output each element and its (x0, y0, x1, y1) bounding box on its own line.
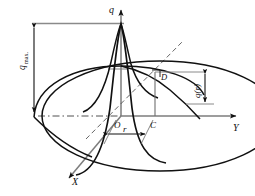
label-q-of-r: q(r) (192, 84, 202, 98)
label-q-max-main: q (17, 65, 27, 70)
r-dimension (104, 120, 153, 144)
label-q-axis: q (109, 4, 114, 15)
label-q-max-sub: max. (22, 51, 29, 64)
inner-surface-ellipse (34, 66, 204, 117)
label-point-c: C (150, 120, 157, 130)
label-q-max: q max. (17, 51, 29, 70)
label-q-of-r-text: q(r) (192, 84, 202, 98)
pressure-distribution-diagram: q Y X O C D r q max. q(r) (0, 0, 255, 196)
figure-container: q Y X O C D r q max. q(r) (0, 0, 255, 196)
label-point-d: D (160, 72, 168, 82)
label-origin-o: O (114, 120, 121, 130)
label-y-axis: Y (233, 122, 240, 133)
d-angle-tick (152, 70, 160, 77)
label-x-axis: X (71, 176, 79, 187)
label-radius-r: r (123, 124, 127, 134)
